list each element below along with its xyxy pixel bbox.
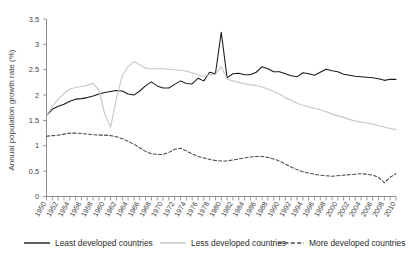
series-line-2 [47, 133, 397, 183]
x-axis-ticks: 1950195219541956195819601962196419661968… [32, 197, 397, 219]
legend-label-1: Less developed countries [191, 238, 286, 248]
population-growth-chart: Annual population growth rate (%) 00.511… [0, 0, 410, 257]
x-tick-label: 2010 [382, 200, 398, 218]
y-tick-label: 3 [35, 40, 39, 49]
y-tick-label: 3.5 [29, 15, 39, 24]
legend-label-2: More developed countries [309, 238, 405, 248]
y-axis-label-text: Annual population growth rate (%) [7, 49, 16, 170]
series-line-0 [47, 32, 397, 115]
data-series-group [47, 32, 397, 183]
y-tick-label: 2.5 [29, 65, 39, 74]
y-axis-ticks: 00.511.522.533.5 [29, 15, 47, 202]
chart-canvas: Annual population growth rate (%) 00.511… [0, 0, 410, 257]
y-tick-label: 1.5 [29, 116, 39, 125]
chart-legend: Least developed countriesLess developed … [24, 238, 405, 248]
legend-label-0: Least developed countries [55, 238, 153, 248]
series-line-1 [47, 62, 397, 130]
y-tick-label: 1 [35, 141, 39, 150]
y-tick-label: 2 [35, 91, 39, 100]
y-axis-label: Annual population growth rate (%) [7, 49, 16, 170]
y-tick-label: 0 [35, 192, 39, 201]
y-tick-label: 0.5 [29, 167, 39, 176]
